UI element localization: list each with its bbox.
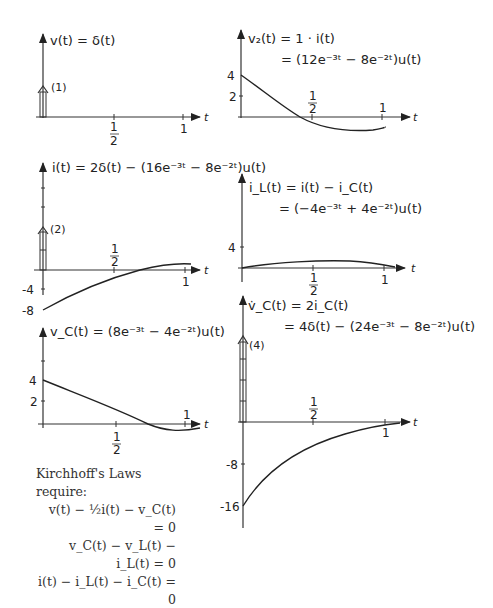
svg-text:t: t [413, 416, 418, 429]
svg-text:t: t [413, 111, 418, 124]
svg-text:1: 1 [182, 275, 190, 289]
panel-vC: 4 2 v_C(t) = (8e⁻³ᵗ − 4e⁻²ᵗ)u(t) 1 2 1 t [29, 324, 225, 457]
label-vCdot-line1: v̇_C(t) = 2i_C(t) [248, 298, 348, 313]
svg-text:4: 4 [29, 374, 37, 388]
svg-text:2: 2 [113, 443, 121, 457]
svg-text:4: 4 [228, 241, 236, 255]
svg-text:1: 1 [379, 101, 387, 115]
svg-text:2: 2 [309, 102, 317, 116]
svg-text:1: 1 [111, 242, 119, 256]
svg-text:-4: -4 [22, 283, 34, 297]
svg-text:-8: -8 [226, 458, 238, 472]
kvl-equation-1: v(t) − ½i(t) − v_C(t) = 0 [36, 501, 176, 537]
impulse-weight-i: (2) [50, 223, 66, 236]
svg-text:2: 2 [310, 284, 318, 298]
kvl-equation-2: v_C(t) − v_L(t) − i_L(t) = 0 [36, 537, 176, 573]
svg-text:1: 1 [310, 395, 318, 409]
svg-text:2: 2 [30, 395, 38, 409]
svg-text:-8: -8 [22, 304, 34, 318]
svg-text:1: 1 [180, 122, 188, 136]
label-v: v(t) = δ(t) [50, 33, 115, 48]
svg-text:t: t [204, 111, 209, 124]
impulse-weight-v: (1) [51, 81, 67, 94]
panel-vCdot: -8 -16 v̇_C(t) = 2i_C(t) = 4δ(t) − (24e⁻… [220, 296, 475, 528]
svg-text:1: 1 [113, 430, 121, 444]
svg-text:1: 1 [381, 273, 389, 287]
svg-text:t: t [204, 264, 209, 277]
svg-text:t: t [204, 418, 209, 431]
svg-text:1: 1 [183, 408, 191, 422]
label-iL-line1: i_L(t) = i(t) − i_C(t) [249, 180, 373, 195]
svg-text:1: 1 [382, 426, 390, 440]
kirchhoff-title: Kirchhoff's Laws require: [36, 465, 176, 501]
svg-text:1: 1 [310, 271, 318, 285]
impulse-weight-vCdot: (4) [249, 339, 265, 352]
svg-text:-16: -16 [220, 500, 240, 514]
label-vC: v_C(t) = (8e⁻³ᵗ − 4e⁻²ᵗ)u(t) [50, 324, 225, 339]
svg-text:2: 2 [310, 408, 318, 422]
panel-iL: 4 i_L(t) = i(t) − i_C(t) = (−4e⁻³ᵗ + 4e⁻… [228, 174, 422, 298]
svg-text:4: 4 [227, 69, 235, 83]
label-i: i(t) = 2δ(t) − (16e⁻³ᵗ − 8e⁻²ᵗ)u(t) [52, 160, 266, 175]
label-v2-line1: v₂(t) = 1 · i̇(t) [248, 31, 335, 46]
svg-text:1: 1 [110, 120, 118, 134]
panel-v2: 4 2 v₂(t) = 1 · i̇(t) = (12e⁻³ᵗ − 8e⁻²ᵗ)… [227, 30, 421, 130]
svg-text:2: 2 [110, 134, 118, 148]
label-iL-line2: = (−4e⁻³ᵗ + 4e⁻²ᵗ)u(t) [279, 201, 422, 216]
label-v2-line2: = (12e⁻³ᵗ − 8e⁻²ᵗ)u(t) [281, 52, 421, 67]
panel-v: v(t) = δ(t) (1) 1 2 1 t [36, 33, 209, 148]
panel-i: -4 -8 i(t) = 2δ(t) − (16e⁻³ᵗ − 8e⁻²ᵗ)u(t… [22, 160, 266, 318]
svg-text:1: 1 [309, 89, 317, 103]
kcl-equation: i(t) − i_L(t) − i_C(t) = 0 [36, 573, 176, 608]
svg-text:2: 2 [111, 255, 119, 269]
svg-text:2: 2 [229, 90, 237, 104]
label-vCdot-line2: = 4δ(t) − (24e⁻³ᵗ − 8e⁻²ᵗ)u(t) [284, 319, 475, 334]
kirchhoff-laws: Kirchhoff's Laws require: v(t) − ½i(t) −… [36, 465, 176, 608]
svg-text:t: t [411, 262, 416, 275]
